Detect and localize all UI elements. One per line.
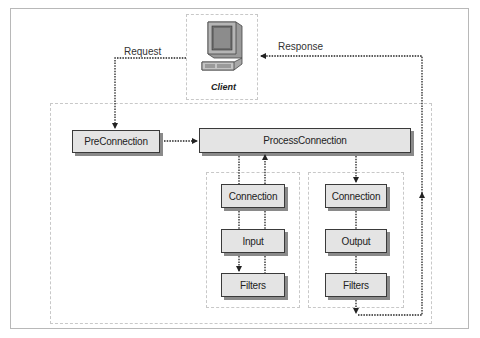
connector-arrows (0, 0, 480, 338)
